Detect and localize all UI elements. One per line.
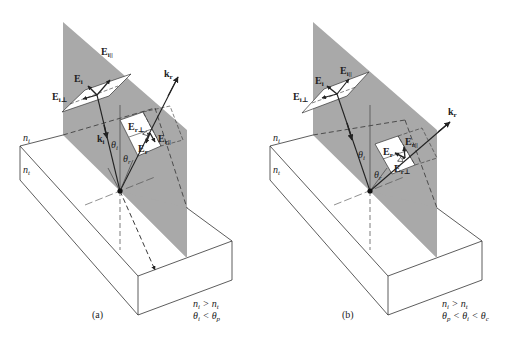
- condition-a-line2: θi < θp: [193, 310, 221, 323]
- panel-b: ni nt Ei Ei|| Ei⊥ kr θi θr Er Er|| Er⊥ (…: [270, 22, 490, 323]
- point-of-incidence: [367, 188, 372, 193]
- caption-a: (a): [92, 309, 103, 321]
- label-n-i: ni: [23, 132, 30, 145]
- label-k-r: kr: [448, 106, 457, 119]
- label-E-i-perp: Ei⊥: [293, 91, 308, 104]
- caption-b: (b): [342, 309, 354, 321]
- label-k-r: kr: [164, 68, 173, 81]
- condition-b-line2: θp < θi < θc: [442, 310, 490, 323]
- panel-a: ni nt Ei Ei|| Ei⊥ ki kr θi θr Er⊥ Er|| E…: [20, 22, 232, 323]
- figure-canvas: ni nt Ei Ei|| Ei⊥ ki kr θi θr Er⊥ Er|| E…: [0, 0, 511, 339]
- k-r-arrow: [438, 122, 450, 132]
- point-of-incidence: [117, 188, 122, 193]
- label-n-i: ni: [273, 132, 280, 145]
